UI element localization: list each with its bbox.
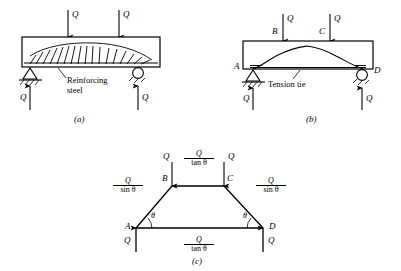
panel-c-angle-label-D: θ [243, 212, 247, 220]
panel-b-reaction-label-1: Q [243, 94, 250, 103]
tension-tie-label: Tension tie [268, 80, 305, 90]
panel-c-caption: (c) [192, 256, 202, 266]
panel-c-angle-arc-D [247, 218, 251, 228]
panel-b-leader-line [293, 70, 300, 79]
panel-b-load-label-2: Q [334, 14, 341, 23]
panel-b-roller-support [353, 70, 369, 85]
panel-a-artwork [19, 10, 160, 110]
panel-c-node-label-B: B [162, 174, 168, 183]
member-force-AD-denominator: tan θ [184, 244, 214, 253]
panel-b-node-label-B: B [272, 27, 278, 36]
panel-c-node-label-D: D [269, 222, 276, 231]
member-force-AD: Q tan θ [184, 236, 214, 254]
reinforcing-steel-label-line2: steel [67, 86, 83, 96]
figure-canvas [0, 0, 401, 271]
panel-b-load-label-1: Q [287, 14, 294, 23]
panel-c-load-label-C: Q [228, 152, 235, 161]
member-force-AB: Q sin θ [113, 177, 143, 195]
panel-a-load-label-2: Q [123, 10, 130, 19]
panel-b-caption: (b) [306, 114, 317, 124]
member-force-BC-numerator: Q [184, 150, 214, 158]
panel-c-load-label-B: Q [163, 152, 170, 161]
member-force-AB-denominator: sin θ [113, 185, 143, 194]
panel-c-angle-label-A: θ [151, 212, 155, 220]
panel-c-reaction-label-D: Q [268, 236, 275, 245]
panel-b-node-label-C: C [319, 27, 325, 36]
panel-a-load-label-1: Q [72, 10, 79, 19]
member-force-CD-denominator: sin θ [256, 185, 286, 194]
panel-b-artwork [242, 14, 373, 110]
panel-b-reaction-label-2: Q [366, 94, 373, 103]
member-force-BC-denominator: tan θ [184, 158, 214, 167]
member-force-CD-numerator: Q [256, 177, 286, 185]
panel-c-node-label-A: A [125, 222, 131, 231]
panel-b-node-label-A: A [234, 62, 240, 71]
panel-a-reaction-label-2: Q [142, 93, 149, 102]
panel-a-leader-line [58, 68, 66, 78]
panel-c-node-label-C: C [227, 174, 233, 183]
member-force-AB-numerator: Q [113, 177, 143, 185]
panel-b-node-label-D: D [374, 66, 381, 75]
panel-a-roller-support [129, 68, 145, 83]
member-force-AD-numerator: Q [184, 236, 214, 244]
panel-c-reaction-label-A: Q [124, 236, 131, 245]
panel-a-caption: (a) [74, 114, 85, 124]
panel-a-pin-support [19, 68, 42, 85]
member-force-CD: Q sin θ [256, 177, 286, 195]
member-force-BC: Q tan θ [184, 150, 214, 168]
panel-a-reaction-label-1: Q [20, 93, 27, 102]
panel-b-pin-support [242, 70, 265, 87]
